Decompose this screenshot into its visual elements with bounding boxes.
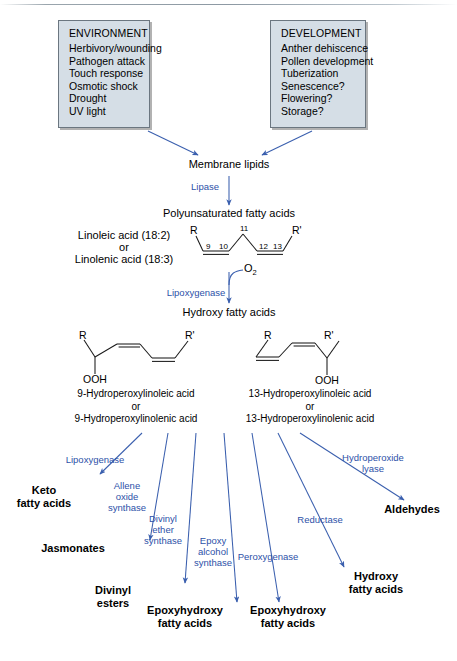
environment-list: Herbivory/wounding Pathogen attack Touch…: [69, 42, 141, 118]
divinyl-line1: Divinyl: [95, 584, 131, 597]
oxygen-label: O2: [244, 262, 257, 277]
node-polyunsaturated-fatty-acids: Polyunsaturated fatty acids: [163, 207, 295, 219]
structure-13-hydroperoxide: [256, 340, 339, 375]
epoxy-right-line2: fatty acids: [250, 617, 326, 630]
eas-line1: Epoxy: [194, 535, 232, 546]
environment-item: Drought: [69, 92, 141, 105]
structure9-label-R: R: [79, 329, 87, 341]
o2-hook-line: [229, 270, 243, 285]
chain-number-12: 12: [259, 242, 268, 251]
eas-line2: alcohol: [194, 546, 232, 557]
product-hydroxy-fatty-acids: Hydroxy fatty acids: [349, 570, 403, 596]
enzyme-label-lipase: Lipase: [191, 181, 219, 192]
aos-line1: Allene: [108, 480, 146, 491]
environment-item: Pathogen attack: [69, 55, 141, 68]
development-item: Anther dehiscence: [281, 42, 357, 55]
product-epoxyhydroxy-fatty-acids-left: Epoxyhydroxy fatty acids: [147, 604, 223, 630]
enzyme-label-reductase: Reductase: [297, 514, 342, 525]
product-keto-line2: fatty acids: [17, 497, 71, 510]
chain-number-11: 11: [240, 224, 248, 233]
development-item: Senescence?: [281, 80, 357, 93]
development-item: Pollen development: [281, 55, 357, 68]
structure9-label-R-prime: R': [185, 329, 195, 341]
eas-line3: synthase: [194, 557, 232, 568]
enzyme-label-divinyl-ether-synthase: Divinyl ether synthase: [144, 513, 182, 546]
development-item: Flowering?: [281, 92, 357, 105]
environment-box: ENVIRONMENT Herbivory/wounding Pathogen …: [58, 20, 150, 128]
environment-item: Osmotic shock: [69, 80, 141, 93]
caption-9-line1: 9-Hydroperoxylinoleic acid: [75, 388, 198, 401]
oxygen-symbol: O: [244, 262, 253, 274]
diagram-canvas: ENVIRONMENT Herbivory/wounding Pathogen …: [0, 0, 457, 661]
environment-item: UV light: [69, 105, 141, 118]
chain-number-9: 9: [206, 242, 210, 251]
hpl-line1: Hydroperoxide: [342, 452, 404, 463]
product-keto-fatty-acids: Keto fatty acids: [17, 484, 71, 510]
chain-label-R: R: [190, 224, 198, 236]
enzyme-label-hydroperoxide-lyase: Hydroperoxide lyase: [342, 452, 404, 474]
enzyme-label-branch-lipoxygenase: Lipoxygenase: [66, 454, 125, 465]
enzyme-label-lipoxygenase: Lipoxygenase: [167, 287, 226, 298]
substrate-or: or: [60, 241, 188, 253]
enzyme-label-peroxygenase: Peroxygenase: [238, 551, 299, 562]
des-line1: Divinyl: [144, 513, 182, 524]
divinyl-line2: esters: [95, 597, 131, 610]
chain-number-10: 10: [219, 242, 228, 251]
structure9-label-OOH: OOH: [83, 373, 107, 385]
aos-line3: synthase: [108, 502, 146, 513]
product-divinyl-esters: Divinyl esters: [95, 584, 131, 610]
caption-13-line3: 13-Hydroperoxylinolenic acid: [246, 413, 374, 426]
caption-9-line3: 9-Hydroperoxylinolenic acid: [75, 413, 198, 426]
oxygen-subscript: 2: [253, 268, 257, 277]
environment-heading: ENVIRONMENT: [69, 27, 141, 39]
structure13-label-R: R: [264, 329, 272, 341]
environment-item: Touch response: [69, 67, 141, 80]
development-box: DEVELOPMENT Anther dehiscence Pollen dev…: [270, 20, 366, 128]
chain-number-13: 13: [273, 242, 282, 251]
hydroxy-line1: Hydroxy: [349, 570, 403, 583]
product-epoxyhydroxy-fatty-acids-right: Epoxyhydroxy fatty acids: [250, 604, 326, 630]
structure-9-hydroperoxide: [84, 340, 188, 374]
hydroxy-line2: fatty acids: [349, 583, 403, 596]
caption-9-hydroperoxide: 9-Hydroperoxylinoleic acid or 9-Hydroper…: [75, 388, 198, 426]
des-line3: synthase: [144, 535, 182, 546]
arrow-environment-to-lipids: [148, 131, 198, 155]
caption-13-or: or: [246, 401, 374, 414]
substrate-linolenic: Linolenic acid (18:3): [60, 253, 188, 265]
caption-13-hydroperoxide: 13-Hydroperoxylinoleic acid or 13-Hydrop…: [246, 388, 374, 426]
arrow-development-to-lipids: [262, 131, 312, 155]
arrow-branch-peroxygenase: [252, 433, 279, 602]
development-item: Tuberization: [281, 67, 357, 80]
product-jasmonates: Jasmonates: [41, 542, 105, 555]
enzyme-label-allene-oxide-synthase: Allene oxide synthase: [108, 480, 146, 513]
arrow-branch-epoxy-alcohol-synthase: [224, 433, 237, 602]
development-list: Anther dehiscence Pollen development Tub…: [281, 42, 357, 118]
development-heading: DEVELOPMENT: [281, 27, 357, 39]
aos-line2: oxide: [108, 491, 146, 502]
product-aldehydes: Aldehydes: [384, 503, 440, 516]
enzyme-label-epoxy-alcohol-synthase: Epoxy alcohol synthase: [194, 535, 232, 568]
arrow-branch-reductase: [278, 433, 344, 567]
caption-13-line1: 13-Hydroperoxylinoleic acid: [246, 388, 374, 401]
chain-label-R-prime: R': [292, 224, 302, 236]
structure13-label-OOH: OOH: [315, 374, 339, 386]
development-item: Storage?: [281, 105, 357, 118]
node-membrane-lipids: Membrane lipids: [189, 158, 270, 170]
epoxy-left-line2: fatty acids: [147, 617, 223, 630]
node-hydroxy-fatty-acids: Hydroxy fatty acids: [183, 306, 276, 318]
environment-item: Herbivory/wounding: [69, 42, 141, 55]
structure13-label-R-prime: R': [324, 329, 334, 341]
product-keto-line1: Keto: [17, 484, 71, 497]
epoxy-right-line1: Epoxyhydroxy: [250, 604, 326, 617]
substrate-linoleic: Linoleic acid (18:2): [60, 229, 188, 241]
hpl-line2: lyase: [342, 463, 404, 474]
caption-9-or: or: [75, 401, 198, 414]
substrate-names: Linoleic acid (18:2) or Linolenic acid (…: [60, 229, 188, 265]
epoxy-left-line1: Epoxyhydroxy: [147, 604, 223, 617]
des-line2: ether: [144, 524, 182, 535]
